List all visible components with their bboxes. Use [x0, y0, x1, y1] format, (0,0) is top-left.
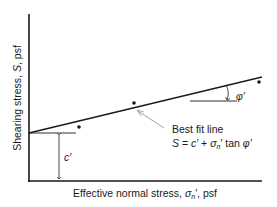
data-point-3: [257, 80, 261, 84]
cohesion-label: c′: [64, 151, 72, 163]
best-fit-equation: S = c′ + σn′ tan φ′: [172, 137, 253, 150]
shear-strength-diagram: c′ φ′ Best fit line S = c′ + σn′ tan φ′ …: [0, 0, 277, 207]
best-fit-label: Best fit line: [172, 123, 224, 135]
data-point-1: [77, 125, 81, 129]
annotation-leader-line: [138, 111, 164, 128]
x-axis-label: Effective normal stress, σn′, psf: [73, 187, 217, 200]
best-fit-line: [29, 77, 262, 133]
angle-arc: [226, 85, 228, 100]
angle-label: φ′: [236, 90, 246, 102]
data-point-2: [132, 101, 136, 105]
y-axis-label: Shearing stress, S, psf: [11, 45, 23, 151]
